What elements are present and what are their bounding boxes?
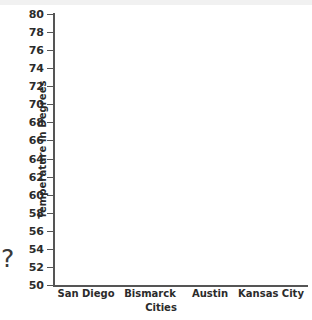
bar-chart: ? Temperature in Degrees 807876747270686… [0, 0, 312, 320]
y-axis-tick-mark [47, 285, 53, 286]
y-axis-tick-mark [47, 86, 53, 87]
y-axis-tick-label: 68 [10, 117, 44, 128]
x-axis-category-label: Kansas City [221, 289, 312, 299]
y-axis-tick-label: 74 [10, 63, 44, 74]
y-axis-tick-mark [47, 140, 53, 141]
y-axis-tick-mark [47, 231, 53, 232]
top-edge-band [0, 0, 312, 5]
y-axis-tick-mark [47, 159, 53, 160]
y-axis-tick-label: 66 [10, 135, 44, 146]
y-axis-tick-mark [47, 32, 53, 33]
y-axis-tick-label: 64 [10, 154, 44, 165]
y-axis-tick-mark [47, 104, 53, 105]
plot-area [55, 13, 308, 285]
y-axis-tick-label: 72 [10, 81, 44, 92]
y-axis-tick-mark [47, 122, 53, 123]
y-axis-tick-label: 52 [10, 262, 44, 273]
y-axis-tick-label: 78 [10, 27, 44, 38]
y-axis-tick-mark [47, 50, 53, 51]
y-axis-tick-mark [47, 68, 53, 69]
y-axis-tick-label: 70 [10, 99, 44, 110]
y-axis-tick-mark [47, 213, 53, 214]
y-axis-tick-mark [47, 267, 53, 268]
y-axis-tick-label: 76 [10, 45, 44, 56]
y-axis-tick-mark [47, 177, 53, 178]
x-axis-title: Cities [113, 303, 209, 313]
y-axis-tick-label: 60 [10, 190, 44, 201]
y-axis-tick-label: 58 [10, 208, 44, 219]
y-axis-tick-label: 56 [10, 226, 44, 237]
y-axis-tick-mark [47, 195, 53, 196]
y-axis-tick-label: 62 [10, 172, 44, 183]
y-axis-tick-mark [47, 14, 53, 15]
y-axis-tick-label: 54 [10, 244, 44, 255]
x-axis-line [53, 285, 308, 287]
y-axis-tick-label: 80 [10, 9, 44, 20]
y-axis-tick-mark [47, 249, 53, 250]
